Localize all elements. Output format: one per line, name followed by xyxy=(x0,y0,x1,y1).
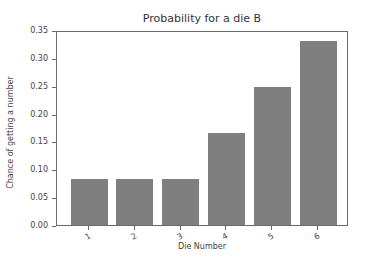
y-tick-label: 0.10 xyxy=(0,166,48,174)
y-axis-label: Chance of getting a number xyxy=(6,53,15,213)
x-tick-mark xyxy=(180,226,181,230)
bar-chart: Probability for a die B Chance of gettin… xyxy=(0,0,368,264)
y-tick-label: 0.30 xyxy=(0,55,48,63)
bar-2 xyxy=(116,179,153,225)
y-tick-label: 0.05 xyxy=(0,194,48,202)
bar-6 xyxy=(300,41,337,225)
y-tick-label: 0.15 xyxy=(0,138,48,146)
y-tick-label: 0.25 xyxy=(0,83,48,91)
chart-title: Probability for a die B xyxy=(56,12,348,25)
bar-5 xyxy=(254,87,291,225)
bar-4 xyxy=(208,133,245,225)
bar-3 xyxy=(162,179,199,225)
x-axis-label: Die Number xyxy=(56,242,348,251)
y-tick-label: 0.20 xyxy=(0,111,48,119)
plot-area xyxy=(56,31,348,226)
y-tick-mark xyxy=(52,226,56,227)
y-tick-label: 0.35 xyxy=(0,27,48,35)
y-tick-label: 0.00 xyxy=(0,222,48,230)
bar-1 xyxy=(71,179,108,225)
